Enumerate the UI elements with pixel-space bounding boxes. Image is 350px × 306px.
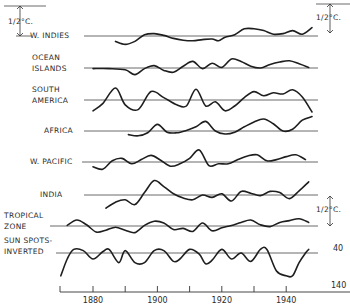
series-line-sun-spots-inverted <box>61 247 309 277</box>
x-tick-label-1920: 1920 <box>212 296 232 305</box>
series-label-south-america: AMERICA <box>32 96 69 105</box>
sunspot-top-label: 40 <box>333 244 343 253</box>
x-tick-label-1940: 1940 <box>276 296 296 305</box>
baselines-layer <box>50 36 318 253</box>
series-label-africa: AFRICA <box>44 126 74 135</box>
temperature-chart: W. INDIESOCEANISLANDSSOUTHAMERICAAFRICAW… <box>0 0 350 306</box>
scale-bar-right-lower: 1/2°C. <box>316 196 341 226</box>
series-label-sun-spots-inverted: INVERTED <box>4 247 44 256</box>
sunspot-bottom-label: 140 <box>331 281 346 290</box>
x-axis: 1880190019201940 <box>60 286 350 305</box>
scale-label-top-left: 1/2°C. <box>8 17 33 26</box>
series-label-ocean-islands: OCEAN <box>32 53 60 62</box>
scale-bar-top-right: 1/2°C. <box>316 4 350 33</box>
series-line-india <box>106 180 309 208</box>
series-label-tropical-zone: ZONE <box>4 222 27 231</box>
series-label-ocean-islands: ISLANDS <box>32 64 67 73</box>
series-line-w-pacific <box>93 150 306 170</box>
series-label-india: INDIA <box>40 190 63 199</box>
series-label-sun-spots-inverted: SUN SPOTS- <box>4 236 52 245</box>
scale-label-right-lower: 1/2°C. <box>316 205 341 214</box>
series-line-ocean-islands <box>93 59 309 75</box>
x-tick-label-1900: 1900 <box>147 296 167 305</box>
scale-label-top-right: 1/2°C. <box>316 13 341 22</box>
x-tick-label-1880: 1880 <box>83 296 103 305</box>
series-label-w-indies: W. INDIES <box>30 31 69 40</box>
series-label-tropical-zone: TROPICAL <box>3 211 44 220</box>
series-labels-layer: W. INDIESOCEANISLANDSSOUTHAMERICAAFRICAW… <box>3 31 74 256</box>
series-label-w-pacific: W. PACIFIC <box>30 157 73 166</box>
series-label-south-america: SOUTH <box>32 85 60 94</box>
curves-layer <box>61 28 312 277</box>
series-line-africa <box>128 117 312 136</box>
